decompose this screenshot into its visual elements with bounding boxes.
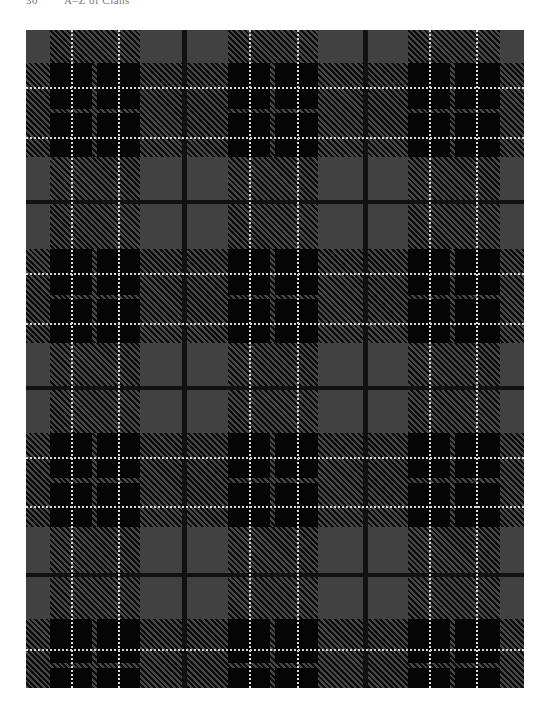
running-title: A–Z of Clans: [64, 0, 130, 6]
white-horizontal-line: [26, 87, 524, 89]
white-vertical-line: [249, 30, 251, 688]
page-number: 30: [26, 0, 64, 6]
vertical-thin-line: [182, 30, 187, 688]
running-header: 30A–Z of Clans: [26, 0, 130, 6]
white-horizontal-line: [26, 506, 524, 508]
horizontal-thin-line: [26, 386, 524, 390]
vertical-thin-line: [363, 30, 368, 688]
white-horizontal-line: [26, 137, 524, 139]
white-vertical-line: [476, 30, 478, 688]
white-vertical-line: [71, 30, 73, 688]
white-horizontal-line: [26, 273, 524, 275]
white-horizontal-line: [26, 649, 524, 651]
white-horizontal-line: [26, 457, 524, 459]
white-vertical-line: [118, 30, 120, 688]
white-vertical-line: [297, 30, 299, 688]
horizontal-thin-line: [26, 573, 524, 577]
white-vertical-line: [429, 30, 431, 688]
horizontal-thin-line: [26, 200, 524, 204]
tartan-image: [26, 30, 524, 688]
white-horizontal-line: [26, 323, 524, 325]
